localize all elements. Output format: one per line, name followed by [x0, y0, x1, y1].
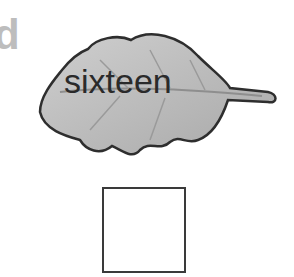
- answer-box[interactable]: [102, 187, 186, 273]
- leaf-word: sixteen: [64, 62, 172, 101]
